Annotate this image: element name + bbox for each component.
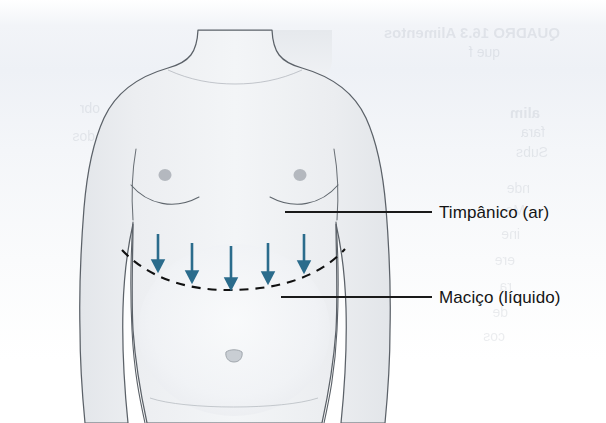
label-dull: Maciço (líquido) xyxy=(439,289,561,306)
navel xyxy=(226,350,242,362)
left-nipple xyxy=(159,169,172,181)
abdomen-shading xyxy=(138,244,330,416)
label-tympanic: Timpânico (ar) xyxy=(439,204,549,221)
right-nipple xyxy=(294,169,307,181)
figure-container: QUADRO 16.3 Alimentos que f alim fara Su… xyxy=(0,0,606,423)
